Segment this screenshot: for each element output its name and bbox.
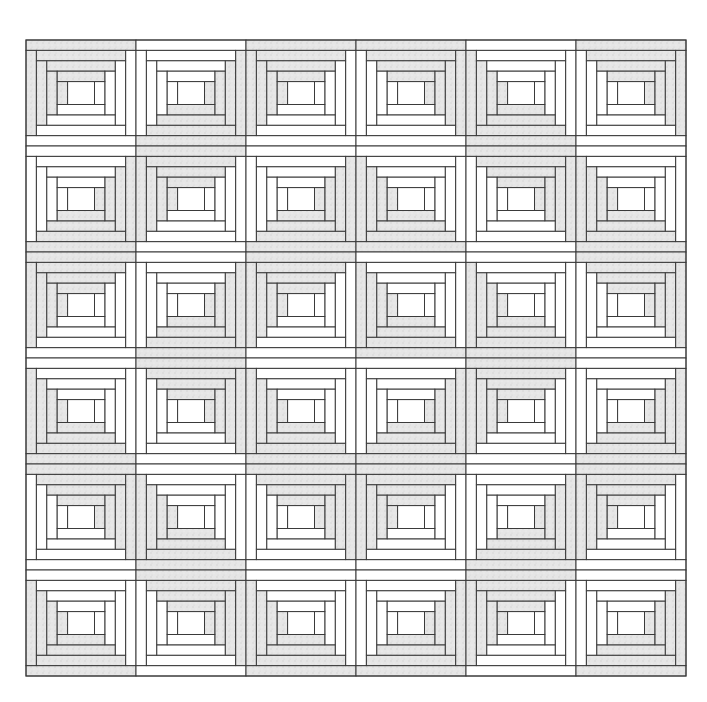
log-bottom xyxy=(377,327,445,337)
log-top xyxy=(597,485,665,495)
log-top xyxy=(256,156,345,166)
block-center xyxy=(508,82,535,105)
log-bottom xyxy=(377,221,445,231)
quilt-block xyxy=(26,464,136,570)
block-center xyxy=(178,612,205,635)
log-right xyxy=(314,294,324,317)
log-left xyxy=(256,61,266,125)
log-top xyxy=(47,61,115,71)
log-right xyxy=(676,50,686,135)
log-right xyxy=(105,495,115,539)
log-top xyxy=(366,156,455,166)
log-top xyxy=(597,273,665,283)
log-right xyxy=(424,82,434,105)
quilt-block xyxy=(576,252,686,358)
log-top xyxy=(246,252,356,262)
log-bottom xyxy=(576,242,686,252)
log-bottom xyxy=(377,433,445,443)
log-right xyxy=(105,601,115,645)
log-right xyxy=(545,601,555,645)
log-top xyxy=(167,601,215,611)
log-left xyxy=(607,188,617,211)
log-left xyxy=(576,262,586,347)
log-right xyxy=(644,188,654,211)
log-bottom xyxy=(167,316,215,326)
log-right xyxy=(676,474,686,559)
log-right xyxy=(655,71,665,115)
log-bottom xyxy=(487,115,555,125)
log-top xyxy=(387,283,435,293)
log-right xyxy=(534,188,544,211)
log-top xyxy=(586,262,675,272)
log-right xyxy=(204,188,214,211)
log-top xyxy=(167,495,215,505)
log-left xyxy=(576,580,586,665)
log-top xyxy=(277,389,325,399)
log-left xyxy=(366,167,376,231)
log-bottom xyxy=(387,316,435,326)
log-right xyxy=(215,601,225,645)
log-top xyxy=(366,474,455,484)
log-right xyxy=(335,61,345,125)
log-left xyxy=(597,495,607,539)
log-top xyxy=(57,177,105,187)
log-bottom xyxy=(157,221,225,231)
block-center xyxy=(178,82,205,105)
log-left xyxy=(377,71,387,115)
block-center xyxy=(508,612,535,635)
log-left xyxy=(167,294,177,317)
log-top xyxy=(586,50,675,60)
log-top xyxy=(256,474,345,484)
log-left xyxy=(607,506,617,529)
log-right xyxy=(456,474,466,559)
log-bottom xyxy=(136,136,246,146)
log-left xyxy=(497,188,507,211)
log-top xyxy=(157,591,225,601)
block-center xyxy=(288,612,315,635)
log-top xyxy=(466,40,576,50)
log-bottom xyxy=(487,327,555,337)
log-top xyxy=(497,177,545,187)
log-left xyxy=(576,50,586,135)
log-right xyxy=(314,400,324,423)
log-left xyxy=(476,61,486,125)
quilt-block xyxy=(356,464,466,570)
log-right xyxy=(665,61,675,125)
block-center xyxy=(68,188,95,211)
log-right xyxy=(655,283,665,327)
log-bottom xyxy=(256,231,345,241)
log-left xyxy=(366,273,376,337)
log-right xyxy=(445,485,455,549)
log-right xyxy=(555,167,565,231)
log-bottom xyxy=(476,655,565,665)
log-bottom xyxy=(487,645,555,655)
log-left xyxy=(377,389,387,433)
log-right xyxy=(115,379,125,443)
log-top xyxy=(366,368,455,378)
quilt-block xyxy=(26,146,136,252)
log-left xyxy=(57,612,67,635)
log-bottom xyxy=(246,136,356,146)
quilt-block xyxy=(26,40,136,146)
log-left xyxy=(597,177,607,221)
log-left xyxy=(36,379,46,443)
log-right xyxy=(126,368,136,453)
log-left xyxy=(146,591,156,655)
log-bottom xyxy=(136,242,246,252)
log-top xyxy=(377,379,445,389)
log-bottom xyxy=(476,125,565,135)
log-right xyxy=(435,177,445,221)
log-top xyxy=(47,591,115,601)
log-left xyxy=(356,368,366,453)
block-center xyxy=(618,506,645,529)
log-right xyxy=(236,580,246,665)
log-right xyxy=(534,400,544,423)
quilt-block xyxy=(136,464,246,570)
log-right xyxy=(445,273,455,337)
log-left xyxy=(607,82,617,105)
log-top xyxy=(146,368,235,378)
log-top xyxy=(466,358,576,368)
log-top xyxy=(377,61,445,71)
log-left xyxy=(377,601,387,645)
log-top xyxy=(57,495,105,505)
